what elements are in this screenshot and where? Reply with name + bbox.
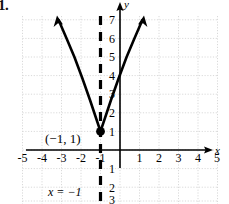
x-tick-label: -2 (76, 151, 86, 165)
vertex-point (96, 127, 105, 136)
axis-of-symmetry-label: x = −1 (47, 185, 82, 199)
x-tick-label: 4 (195, 151, 201, 165)
y-tick-labels-positive: 1 2 3 4 5 6 7 (109, 13, 115, 139)
y-tick-label: 2 (109, 106, 115, 120)
y-axis-label: y (123, 0, 129, 10)
y-tick-label: 6 (109, 32, 115, 46)
y-tick-labels-negative: 1 2 3 (109, 162, 115, 204)
x-tick-label: 3 (176, 151, 182, 165)
x-tick-label: 5 (214, 151, 220, 165)
x-tick-label: -3 (57, 151, 67, 165)
y-tick-label: 1 (109, 162, 115, 176)
y-tick-label: 3 (109, 193, 115, 204)
x-tick-label: 1 (137, 151, 143, 165)
x-tick-label: 2 (156, 151, 162, 165)
y-tick-label: 7 (109, 13, 115, 27)
coordinate-plane: x y -5 -4 -3 -2 -1 1 2 3 4 5 1 2 3 4 5 6… (0, 0, 229, 204)
y-tick-label: 1 (109, 125, 115, 139)
x-tick-labels-positive: 1 2 3 4 5 (137, 151, 221, 165)
parabola-figure: 1. (0, 0, 229, 204)
x-tick-label: -5 (18, 151, 28, 165)
x-tick-labels-negative: -5 -4 -3 -2 -1 (18, 151, 106, 165)
x-tick-label: -4 (37, 151, 47, 165)
y-tick-label: 5 (109, 50, 115, 64)
vertex-coordinate-label: (−1, 1) (45, 131, 81, 146)
y-tick-label: 4 (109, 69, 115, 83)
